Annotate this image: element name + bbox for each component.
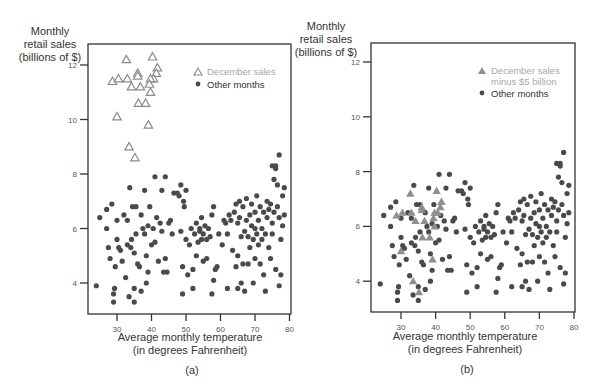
y-tick: 10: [351, 113, 371, 122]
other-month-point: [266, 207, 271, 212]
y-tick: 4: [73, 279, 88, 288]
other-month-point: [411, 183, 416, 188]
svg-text:12: 12: [68, 61, 77, 70]
other-month-point: [113, 264, 118, 269]
other-month-point: [261, 210, 266, 215]
other-month-point: [540, 216, 545, 221]
other-month-point: [495, 276, 500, 281]
other-month-point: [235, 253, 240, 258]
other-month-point: [170, 231, 175, 236]
december-point: [144, 121, 152, 128]
other-month-point: [254, 231, 259, 236]
other-month-point: [443, 185, 448, 190]
other-month-point: [549, 213, 554, 218]
other-month-point: [416, 284, 421, 289]
other-month-point: [256, 218, 261, 223]
other-month-point: [137, 264, 142, 269]
other-month-point: [411, 292, 416, 297]
other-month-point: [509, 229, 514, 234]
panel-b: Monthly retail sales (billions of $) 468…: [296, 0, 592, 391]
december-point: [141, 99, 149, 106]
other-month-point: [483, 235, 488, 240]
other-month-point: [551, 205, 556, 210]
other-month-point: [206, 226, 211, 231]
december-legend-label: December sales: [491, 65, 560, 76]
other-month-point: [270, 231, 275, 236]
other-month-point: [397, 262, 402, 267]
other-month-point: [559, 202, 564, 207]
other-month-point: [142, 188, 147, 193]
other-month-point: [530, 232, 535, 237]
other-month-point: [185, 272, 190, 277]
other-month-point: [194, 253, 199, 258]
other-month-point: [454, 229, 459, 234]
other-month-point: [225, 231, 230, 236]
other-month-point: [551, 243, 556, 248]
other-month-point: [478, 251, 483, 256]
other-month-point: [282, 212, 287, 217]
panel-label: (a): [172, 364, 212, 376]
other-month-point: [180, 264, 185, 269]
other-month-point: [475, 265, 480, 270]
other-month-point: [211, 278, 216, 283]
other-month-point: [566, 183, 571, 188]
other-month-point: [431, 202, 436, 207]
other-month-point: [468, 235, 473, 240]
other-month-point: [183, 188, 188, 193]
other-month-point: [520, 218, 525, 223]
december-point: [426, 233, 434, 240]
other-month-point: [261, 272, 266, 277]
other-month-point: [436, 172, 441, 177]
other-month-point: [461, 191, 466, 196]
other-month-point: [252, 226, 257, 231]
other-month-point: [204, 256, 209, 261]
other-month-point: [443, 227, 448, 232]
other-month-point: [544, 224, 549, 229]
other-month-point: [521, 213, 526, 218]
other-month-point: [277, 152, 282, 157]
other-month-point: [554, 229, 559, 234]
other-month-point: [532, 210, 537, 215]
other-month-point: [395, 290, 400, 295]
other-month-point: [476, 229, 481, 234]
other-month-point: [520, 251, 525, 256]
other-month-point: [412, 243, 417, 248]
other-month-point: [145, 270, 150, 275]
y-tick: 12: [68, 61, 88, 70]
x-title-line: (in degrees Fahrenheit): [350, 343, 580, 356]
other-month-point: [240, 261, 245, 266]
other-month-point: [563, 270, 568, 275]
other-month-point: [244, 218, 249, 223]
other-month-point: [111, 299, 116, 304]
other-month-point: [104, 226, 109, 231]
other-month-point: [159, 229, 164, 234]
other-month-point: [266, 245, 271, 250]
december-point: [136, 83, 144, 90]
other-month-point: [182, 204, 187, 209]
other-month-point: [490, 224, 495, 229]
other-month-point: [114, 218, 119, 223]
other-month-point: [440, 257, 445, 262]
other-month-point: [556, 174, 561, 179]
other-month-point: [259, 226, 264, 231]
other-month-point: [129, 237, 134, 242]
other-month-point: [256, 242, 261, 247]
other-month-point: [492, 232, 497, 237]
other-month-point: [521, 196, 526, 201]
other-month-point: [190, 267, 195, 272]
x-title-line: Average monthly temperature: [75, 331, 305, 344]
other-month-point: [139, 212, 144, 217]
x-tick: 60: [500, 312, 509, 332]
svg-text:8: 8: [73, 170, 78, 179]
y-tick: 8: [73, 170, 88, 179]
other-month-point: [109, 201, 114, 206]
other-month-point: [140, 226, 145, 231]
other-month-point: [511, 210, 516, 215]
other-month-point: [409, 216, 414, 221]
other-month-point: [132, 250, 137, 255]
other-month-point: [97, 215, 102, 220]
other-month-point: [547, 287, 552, 292]
other-month-point: [271, 177, 276, 182]
other-month-point: [535, 279, 540, 284]
december-point: [146, 88, 154, 95]
